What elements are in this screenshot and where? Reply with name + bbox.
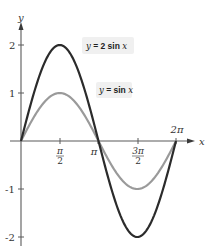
- x-tick-label-num: π: [56, 146, 64, 156]
- y-tick-label: -2: [5, 232, 15, 243]
- x-tick-label-num: 3π: [132, 146, 145, 156]
- x-ticks: π 2 π 3π 2 2π: [56, 124, 184, 166]
- x-tick-label-den: 2: [57, 156, 63, 166]
- svg-text:y = 2 sin x: y = 2 sin x: [85, 41, 127, 51]
- x-axis-arrow-icon: [187, 139, 195, 144]
- svg-text:y = sin x: y = sin x: [98, 85, 133, 95]
- label-sin-x: y = sin x: [96, 82, 133, 98]
- x-tick-label: π: [90, 146, 98, 157]
- y-axis-arrow-icon: [19, 22, 24, 30]
- y-tick-label: -1: [5, 184, 15, 195]
- y-tick-label: 2: [9, 40, 15, 51]
- label-2-sin-x: y = 2 sin x: [82, 37, 134, 54]
- x-tick-label: 2π: [170, 124, 184, 135]
- x-axis-label: x: [199, 136, 205, 147]
- y-axis-label: y: [17, 12, 24, 23]
- sine-chart: y x 2 1 -1 -2 π 2 π 3π 2 2π y = 2 sin x: [0, 0, 211, 249]
- y-tick-label: 1: [9, 88, 15, 99]
- x-tick-label-den: 2: [135, 156, 141, 166]
